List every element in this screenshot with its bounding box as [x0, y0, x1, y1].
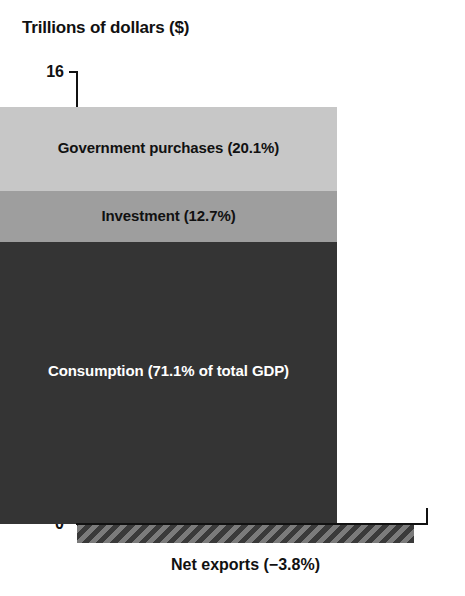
y-tick-16: [69, 71, 78, 73]
bar-segment-net-exports[interactable]: [77, 525, 414, 543]
bar-segment-consumption[interactable]: Consumption (71.1% of total GDP): [0, 242, 337, 524]
x-axis-end-tick: [426, 508, 428, 525]
bar-segment-label-consumption: Consumption (71.1% of total GDP): [0, 362, 337, 379]
bar-segment-label-investment: Investment (12.7%): [0, 207, 337, 224]
gdp-components-stacked-bar-chart: Trillions of dollars ($) 16 14 12 10 8 6: [0, 0, 465, 596]
bar-segment-government-purchases[interactable]: Government purchases (20.1%): [0, 107, 337, 191]
net-exports-label: Net exports (−3.8%): [77, 556, 414, 574]
y-tick-label-16: 16: [24, 64, 64, 80]
bar-segment-label-government-purchases: Government purchases (20.1%): [0, 139, 337, 156]
bar-segment-investment[interactable]: Investment (12.7%): [0, 191, 337, 242]
y-tick-label-16-wrap: 16: [20, 64, 64, 80]
x-axis-baseline: [76, 523, 428, 525]
plot-area: 16 14 12 10 8 6 4 2 0: [0, 0, 465, 596]
